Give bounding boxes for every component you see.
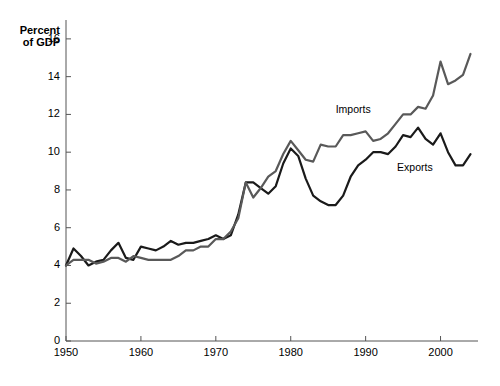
series-line-imports [66,54,471,265]
plot-area [0,0,500,386]
chart-container: Percent of GDP 0246810121416 19501960197… [0,0,500,386]
axis-lines [66,20,478,341]
axis-tick-marks [66,39,441,341]
series-lines [66,54,471,265]
series-line-exports [66,128,471,266]
